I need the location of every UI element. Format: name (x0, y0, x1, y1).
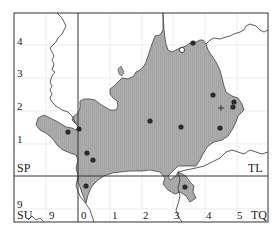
record-dot (182, 184, 187, 189)
northing-label-2: 2 (17, 100, 23, 112)
county-region (36, 13, 244, 203)
northing-label-4: 4 (17, 35, 23, 47)
record-dot (76, 126, 81, 131)
grid-square-su: SU (17, 208, 33, 222)
record-dot (84, 150, 89, 155)
record-dot (190, 40, 195, 45)
distribution-map: 4 3 2 1 9 SP TL SU TQ 9 0 1 2 3 4 5 (0, 0, 276, 235)
easting-label-3: 3 (174, 209, 180, 221)
easting-label-1: 1 (112, 209, 118, 221)
record-dot (147, 118, 152, 123)
grid-square-tl: TL (248, 161, 263, 175)
grid-square-sp: SP (17, 161, 31, 175)
easting-label-2: 2 (143, 209, 149, 221)
northing-label-1: 1 (17, 133, 23, 145)
enclave (118, 66, 124, 76)
record-dot (217, 125, 222, 130)
northing-label-3: 3 (17, 67, 23, 79)
record-dot (83, 183, 88, 188)
grid-square-tq: TQ (251, 208, 267, 222)
record-dot (65, 129, 70, 134)
easting-label-4: 4 (206, 209, 212, 221)
record-dot (230, 104, 235, 109)
record-dot (178, 124, 183, 129)
record-dot (210, 92, 215, 97)
record-open-circle (179, 47, 184, 52)
record-dot (90, 157, 95, 162)
record-dot (231, 99, 236, 104)
northing-labels: 4 3 2 1 9 (17, 35, 23, 210)
easting-label-0: 0 (81, 209, 87, 221)
easting-label-9: 9 (49, 209, 55, 221)
easting-label-5: 5 (237, 209, 243, 221)
